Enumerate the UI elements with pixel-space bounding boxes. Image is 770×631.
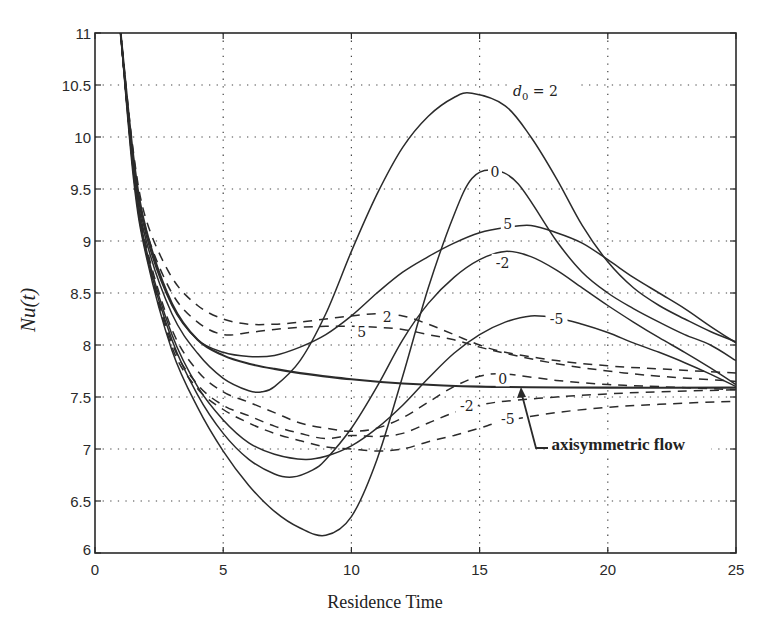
curve-label: 5 [503, 216, 512, 232]
y-tick-label: 6 [83, 541, 91, 558]
y-tick-label: 10 [74, 129, 91, 146]
series-line-4 [121, 33, 736, 459]
x-tick-label: 5 [219, 561, 227, 578]
x-axis-label: Residence Time [0, 592, 770, 613]
curve-label: 2 [383, 309, 392, 325]
series-line-0 [121, 33, 736, 392]
series-line-3 [121, 33, 736, 477]
y-tick-label: 9 [83, 233, 91, 250]
series-line-5 [121, 33, 736, 388]
x-tick-label: 25 [728, 561, 745, 578]
curve-label: 5 [357, 324, 366, 340]
chart: 051015202566.577.588.599.51010.511 d0 = … [0, 0, 770, 631]
curve-label: -2 [496, 255, 510, 271]
x-tick-label: 15 [471, 561, 488, 578]
y-axis-label: Nu(t) [16, 288, 41, 332]
curve-label: 0 [498, 371, 507, 387]
y-tick-label: 7 [83, 441, 91, 458]
axis-ticks: 051015202566.577.588.599.51010.511 [62, 25, 745, 578]
series-line-2 [121, 33, 736, 357]
axisymmetric-flow-label: axisymmetric flow [551, 435, 685, 454]
x-tick-label: 20 [599, 561, 616, 578]
y-tick-label: 8.5 [70, 285, 91, 302]
series-line-6 [121, 33, 736, 373]
curve-label: -5 [501, 411, 515, 427]
y-tick-label: 8 [83, 337, 91, 354]
x-tick-label: 10 [343, 561, 360, 578]
y-tick-label: 6.5 [70, 493, 91, 510]
series-line-8 [121, 33, 736, 431]
series-lines [121, 33, 736, 536]
y-tick-label: 9.5 [70, 181, 91, 198]
curve-label: -5 [550, 311, 564, 327]
curve-label: 0 [491, 164, 500, 180]
y-tick-label: 10.5 [62, 77, 91, 94]
y-tick-label: 7.5 [70, 389, 91, 406]
y-tick-label: 11 [75, 25, 91, 42]
curve-label: -2 [460, 398, 474, 414]
y-axis-label-text: Nu(t) [16, 288, 40, 332]
x-tick-label: 0 [91, 561, 99, 578]
